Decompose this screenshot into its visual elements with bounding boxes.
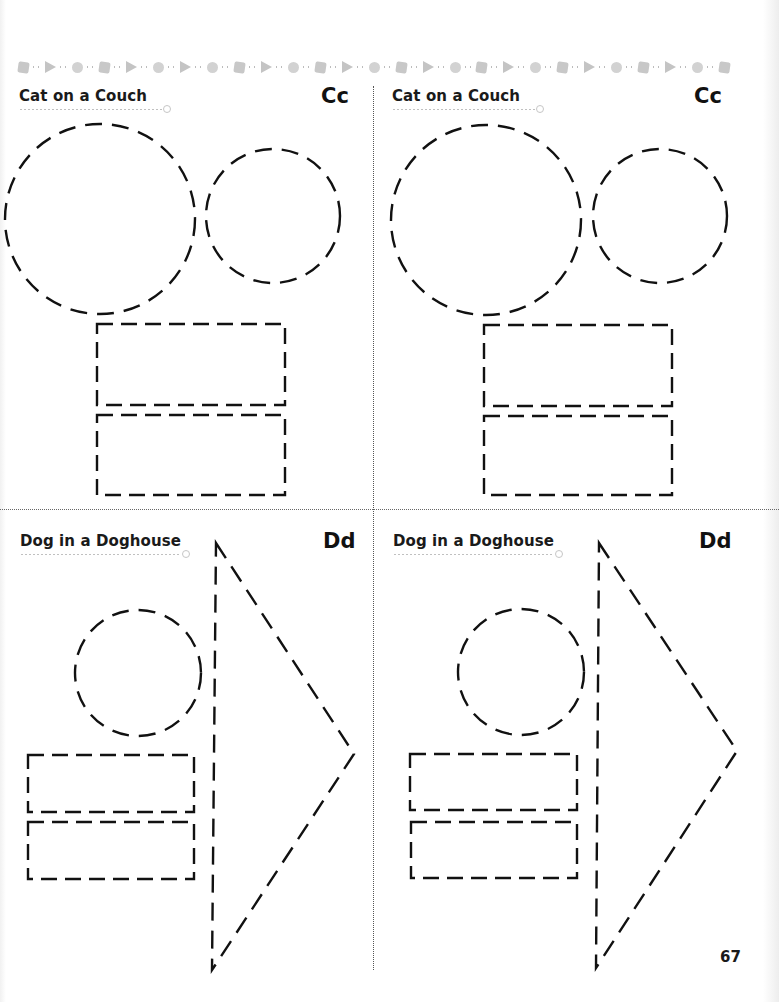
dashed-rectangle-shape — [484, 416, 672, 495]
shapes-top-right — [391, 125, 727, 495]
shapes-top-left — [5, 124, 340, 495]
dashed-rectangle-shape — [484, 325, 672, 406]
dashed-circle-shape — [391, 125, 581, 315]
dashed-circle-shape — [458, 609, 584, 735]
page-number: 67 — [720, 948, 741, 966]
dashed-rectangle-shape — [97, 415, 285, 495]
dashed-triangle-shape — [212, 543, 354, 970]
shapes-bottom-right — [410, 543, 737, 968]
dashed-rectangle-shape — [410, 754, 577, 810]
dashed-circle-shape — [593, 149, 727, 283]
dashed-circle-shape — [206, 149, 340, 283]
dashed-rectangle-shape — [411, 822, 577, 878]
tracing-shapes — [0, 0, 779, 1002]
dashed-rectangle-shape — [28, 755, 194, 812]
dashed-triangle-shape — [596, 543, 737, 968]
shapes-bottom-left — [28, 543, 354, 970]
dashed-circle-shape — [5, 124, 195, 314]
dashed-circle-shape — [75, 610, 201, 736]
dashed-rectangle-shape — [28, 822, 194, 879]
dashed-rectangle-shape — [97, 324, 285, 405]
